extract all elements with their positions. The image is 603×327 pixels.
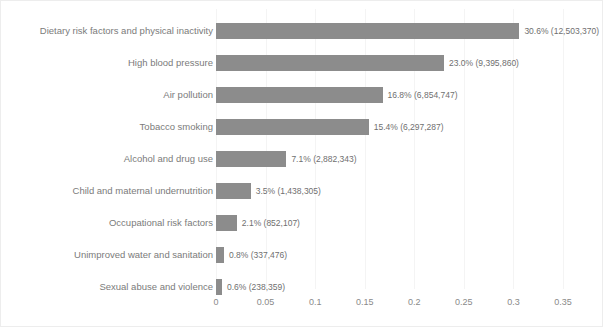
x-tick-label: 0.35: [543, 295, 583, 309]
x-tick-label: 0.2: [394, 295, 434, 309]
category-label: High blood pressure: [0, 53, 213, 73]
x-axis: 00.050.10.150.20.250.30.35: [1, 289, 603, 327]
bar-row: Tobacco smoking15.4% (6,297,287): [1, 119, 603, 135]
bar[interactable]: [216, 215, 237, 231]
x-tick-label: 0.25: [444, 295, 484, 309]
x-tick-label: 0.1: [295, 295, 335, 309]
bar-row: Dietary risk factors and physical inacti…: [1, 23, 603, 39]
bar[interactable]: [216, 183, 251, 199]
bar[interactable]: [216, 55, 444, 71]
bar-row: Air pollution16.8% (6,854,747): [1, 87, 603, 103]
x-tick-label: 0.15: [345, 295, 385, 309]
bar[interactable]: [216, 247, 224, 263]
bar-value-label: 23.0% (9,395,860): [449, 54, 519, 72]
x-tick-label: 0.3: [493, 295, 533, 309]
bar[interactable]: [216, 151, 286, 167]
bar-value-label: 15.4% (6,297,287): [374, 118, 444, 136]
bar[interactable]: [216, 87, 383, 103]
category-label: Tobacco smoking: [0, 117, 213, 137]
bar-value-label: 16.8% (6,854,747): [388, 86, 458, 104]
bar-row: Unimproved water and sanitation0.8% (337…: [1, 247, 603, 263]
bar-row: High blood pressure23.0% (9,395,860): [1, 55, 603, 71]
bar-value-label: 7.1% (2,882,343): [291, 150, 356, 168]
bar-value-label: 3.5% (1,438,305): [256, 182, 321, 200]
plot-area: Dietary risk factors and physical inacti…: [1, 1, 603, 289]
category-label: Dietary risk factors and physical inacti…: [0, 21, 213, 41]
category-label: Unimproved water and sanitation: [0, 245, 213, 265]
bar-value-label: 30.6% (12,503,370): [524, 22, 599, 40]
bar-row: Occupational risk factors2.1% (852,107): [1, 215, 603, 231]
category-label: Occupational risk factors: [0, 213, 213, 233]
bar-value-label: 0.8% (337,476): [229, 246, 287, 264]
bar-chart: Dietary risk factors and physical inacti…: [0, 0, 603, 327]
bar[interactable]: [216, 23, 519, 39]
category-label: Child and maternal undernutrition: [0, 181, 213, 201]
bar-row: Alcohol and drug use7.1% (2,882,343): [1, 151, 603, 167]
bar-row: Child and maternal undernutrition3.5% (1…: [1, 183, 603, 199]
category-label: Alcohol and drug use: [0, 149, 213, 169]
bar[interactable]: [216, 119, 369, 135]
x-tick-label: 0: [196, 295, 236, 309]
bar-value-label: 2.1% (852,107): [242, 214, 300, 232]
x-tick-label: 0.05: [246, 295, 286, 309]
category-label: Air pollution: [0, 85, 213, 105]
